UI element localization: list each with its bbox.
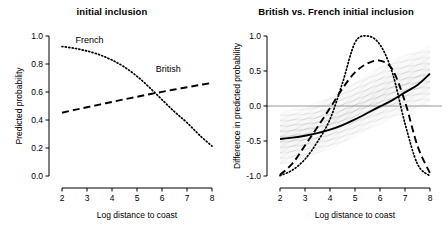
y-tick-label: 1.0 [31,31,43,41]
y-tick-label: 0.4 [31,115,43,125]
series-line-french [62,47,212,147]
x-axis-title: Log distance to coast [315,210,396,220]
y-tick-label: -1.0 [246,171,261,181]
series-label-british: British [156,64,181,74]
x-tick-label: 5 [135,193,140,203]
series-line-british [62,83,212,113]
y-tick-label: 0.8 [31,59,43,69]
y-axis-title: Difference in predicted probability [232,42,242,169]
y-tick-label: 0.6 [31,87,43,97]
x-tick-label: 3 [303,193,308,203]
x-tick-label: 6 [378,193,383,203]
x-tick-label: 5 [353,193,358,203]
series-label-french: French [75,35,103,45]
x-tick-label: 6 [160,193,165,203]
plot-left-svg: 0.00.20.40.60.81.0Predicted probability2… [0,0,224,229]
y-axis-title: Predicted probability [14,67,24,145]
plot-right-svg: -1.0-0.50.00.51.0Difference in predicted… [224,0,448,229]
y-tick-label: 0.5 [249,66,261,76]
x-tick-label: 3 [85,193,90,203]
x-tick-label: 2 [278,193,283,203]
y-tick-label: -0.5 [246,136,261,146]
x-tick-label: 4 [328,193,333,203]
x-tick-label: 7 [185,193,190,203]
y-tick-label: 0.0 [31,171,43,181]
x-tick-label: 8 [428,193,433,203]
figure-canvas: initial inclusion 0.00.20.40.60.81.0Pred… [0,0,448,229]
x-tick-label: 8 [210,193,215,203]
x-tick-label: 4 [110,193,115,203]
y-tick-label: 0.0 [249,101,261,111]
x-tick-label: 7 [403,193,408,203]
chart-panel-initial-inclusion: initial inclusion 0.00.20.40.60.81.0Pred… [0,0,224,229]
x-tick-label: 2 [60,193,65,203]
x-axis-title: Log distance to coast [97,210,178,220]
y-tick-label: 1.0 [249,31,261,41]
y-tick-label: 0.2 [31,143,43,153]
chart-panel-british-vs-french: British vs. French initial inclusion -1.… [224,0,448,229]
